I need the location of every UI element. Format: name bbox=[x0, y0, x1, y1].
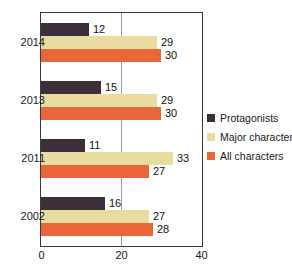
bar-value-label: 11 bbox=[85, 140, 100, 151]
bar-row: 27 bbox=[41, 165, 202, 178]
bar bbox=[41, 210, 149, 223]
legend-item[interactable]: All characters bbox=[207, 148, 292, 164]
bar-value-label: 27 bbox=[149, 166, 165, 177]
plot-area: 122930152930113327162728 bbox=[40, 12, 203, 247]
bar-row: 27 bbox=[41, 210, 202, 223]
legend-label: All characters bbox=[220, 151, 284, 162]
bar-row: 16 bbox=[41, 197, 202, 210]
x-tick-label: 40 bbox=[195, 250, 207, 261]
bar-row: 28 bbox=[41, 223, 202, 236]
category-label-2011: 2011 bbox=[21, 153, 45, 164]
bar-row: 29 bbox=[41, 94, 202, 107]
bar-value-label: 16 bbox=[105, 198, 121, 209]
bar-value-label: 12 bbox=[89, 24, 105, 35]
bar bbox=[41, 107, 161, 120]
bar-group: 113327 bbox=[41, 139, 202, 178]
bar-group: 162728 bbox=[41, 197, 202, 236]
legend-label: Protagonists bbox=[220, 113, 278, 124]
bar-row: 11 bbox=[41, 139, 202, 152]
category-label-2013: 2013 bbox=[21, 95, 45, 106]
bar bbox=[41, 165, 149, 178]
bar-value-label: 27 bbox=[149, 211, 165, 222]
category-label-2002: 2002 bbox=[21, 211, 45, 222]
legend-item[interactable]: Protagonists bbox=[207, 110, 292, 126]
bar bbox=[41, 23, 89, 36]
bar-row: 12 bbox=[41, 23, 202, 36]
x-tick-label: 0 bbox=[38, 250, 44, 261]
bar-row: 30 bbox=[41, 107, 202, 120]
legend-item[interactable]: Major characters bbox=[207, 129, 292, 145]
legend-swatch-icon bbox=[207, 152, 215, 160]
bar bbox=[41, 197, 105, 210]
bar-value-label: 29 bbox=[157, 37, 173, 48]
bar-row: 29 bbox=[41, 36, 202, 49]
bar-row: 30 bbox=[41, 49, 202, 62]
legend-label: Major characters bbox=[220, 132, 292, 143]
bar-value-label: 28 bbox=[153, 224, 169, 235]
bar bbox=[41, 36, 157, 49]
bar bbox=[41, 139, 85, 152]
bar bbox=[41, 152, 173, 165]
bar-value-label: 15 bbox=[101, 82, 117, 93]
bar bbox=[41, 223, 153, 236]
bar-row: 15 bbox=[41, 81, 202, 94]
category-label-2014: 2014 bbox=[21, 37, 45, 48]
bar bbox=[41, 94, 157, 107]
bar bbox=[41, 49, 161, 62]
bar-group: 152930 bbox=[41, 81, 202, 120]
legend: ProtagonistsMajor charactersAll characte… bbox=[207, 110, 292, 167]
bar-value-label: 30 bbox=[161, 50, 177, 61]
bar-value-label: 29 bbox=[157, 95, 173, 106]
legend-swatch-icon bbox=[207, 133, 215, 141]
x-tick-label: 20 bbox=[115, 250, 127, 261]
bar-chart: 122930152930113327162728 201420132011200… bbox=[0, 0, 292, 275]
bar-row: 33 bbox=[41, 152, 202, 165]
bar-value-label: 33 bbox=[173, 153, 189, 164]
bar-value-label: 30 bbox=[161, 108, 177, 119]
bar bbox=[41, 81, 101, 94]
bar-group: 122930 bbox=[41, 23, 202, 62]
legend-swatch-icon bbox=[207, 114, 215, 122]
